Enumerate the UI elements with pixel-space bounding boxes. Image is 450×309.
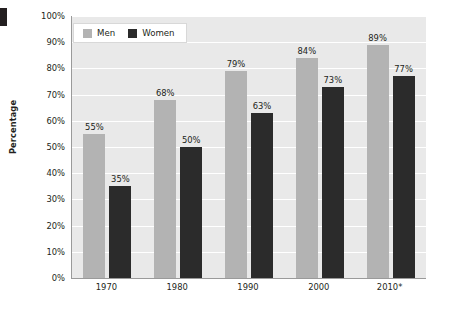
plot-area: 55%35%68%50%79%63%84%73%89%77% bbox=[71, 16, 426, 279]
bar-men-2000: 84% bbox=[296, 58, 318, 278]
y-tick-label: 60% bbox=[0, 116, 65, 126]
y-axis-tick-labels: 0%10%20%30%40%50%60%70%80%90%100% bbox=[0, 16, 65, 278]
y-tick-label: 0% bbox=[0, 273, 65, 283]
x-tick-label: 1970 bbox=[96, 282, 117, 292]
bar-series-container: 55%35%68%50%79%63%84%73%89%77% bbox=[72, 16, 426, 278]
bar-value-label: 77% bbox=[394, 64, 413, 74]
y-tick-label: 30% bbox=[0, 194, 65, 204]
bar-women-2010: 77% bbox=[393, 76, 415, 278]
legend-label: Men bbox=[97, 28, 115, 38]
bar-value-label: 63% bbox=[253, 101, 272, 111]
y-tick-label: 100% bbox=[0, 11, 65, 21]
x-tick-label: 1990 bbox=[237, 282, 258, 292]
bar-chart-figure: Percentage 0%10%20%30%40%50%60%70%80%90%… bbox=[0, 0, 450, 309]
bar-value-label: 55% bbox=[85, 122, 104, 132]
x-tick-label: 1980 bbox=[167, 282, 188, 292]
bar-value-label: 35% bbox=[111, 174, 130, 184]
bar-value-label: 50% bbox=[182, 135, 201, 145]
bar-group: 79%63% bbox=[225, 16, 273, 278]
bar-value-label: 73% bbox=[323, 75, 342, 85]
bar-group: 68%50% bbox=[154, 16, 202, 278]
y-tick-label: 70% bbox=[0, 90, 65, 100]
x-axis-tick-labels: 19701980199020002010* bbox=[71, 282, 425, 302]
bar-value-label: 68% bbox=[156, 88, 175, 98]
x-tick-label: 2010* bbox=[377, 282, 403, 292]
y-tick-label: 10% bbox=[0, 247, 65, 257]
bar-value-label: 89% bbox=[368, 33, 387, 43]
bar-women-1990: 63% bbox=[251, 113, 273, 278]
bar-group: 89%77% bbox=[367, 16, 415, 278]
legend-item-men: Men bbox=[83, 28, 115, 38]
y-tick-label: 50% bbox=[0, 142, 65, 152]
legend-item-women: Women bbox=[128, 28, 174, 38]
chart-legend: MenWomen bbox=[73, 23, 187, 43]
bar-men-2010: 89% bbox=[367, 45, 389, 278]
x-tick-label: 2000 bbox=[308, 282, 329, 292]
legend-swatch-icon bbox=[128, 29, 137, 38]
y-tick-label: 40% bbox=[0, 168, 65, 178]
legend-swatch-icon bbox=[83, 29, 92, 38]
bar-men-1990: 79% bbox=[225, 71, 247, 278]
y-tick-label: 80% bbox=[0, 63, 65, 73]
y-tick-label: 20% bbox=[0, 221, 65, 231]
bar-women-1970: 35% bbox=[109, 186, 131, 278]
bar-men-1980: 68% bbox=[154, 100, 176, 278]
y-tick-label: 90% bbox=[0, 37, 65, 47]
bar-value-label: 84% bbox=[297, 46, 316, 56]
legend-label: Women bbox=[142, 28, 174, 38]
bar-group: 84%73% bbox=[296, 16, 344, 278]
bar-group: 55%35% bbox=[83, 16, 131, 278]
bar-women-2000: 73% bbox=[322, 87, 344, 278]
bar-value-label: 79% bbox=[227, 59, 246, 69]
bar-men-1970: 55% bbox=[83, 134, 105, 278]
bar-women-1980: 50% bbox=[180, 147, 202, 278]
